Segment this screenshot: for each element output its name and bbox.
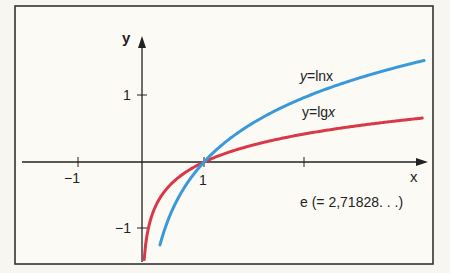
y-tick-label-neg1: −1 <box>115 220 131 236</box>
ln-series-label: y=lnx <box>299 68 333 84</box>
e-annotation: e (= 2,71828. . .) <box>300 194 403 210</box>
y-tick-label-1: 1 <box>123 87 131 103</box>
y-axis-label: y <box>122 29 131 46</box>
x-tick-label-1: 1 <box>199 172 207 188</box>
lg-series-label: y=lgx <box>302 104 336 120</box>
chart: y x 1 −1 −1 1 y=lnx y=lgx e (= 2,71828. … <box>0 0 450 273</box>
chart-frame <box>15 6 433 264</box>
x-tick-label-neg1: −1 <box>64 170 80 186</box>
x-axis-label: x <box>410 168 418 185</box>
